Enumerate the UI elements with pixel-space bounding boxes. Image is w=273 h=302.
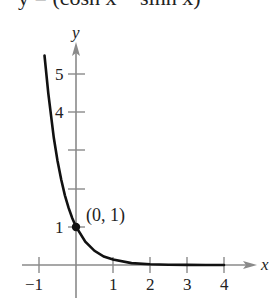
point-label: (0, 1) bbox=[86, 205, 125, 226]
x-axis-label: x bbox=[260, 255, 269, 274]
y-axis-label: y bbox=[70, 23, 80, 42]
x-tick-label-2: 2 bbox=[146, 275, 155, 294]
x-axis: x −1 1 2 3 4 bbox=[22, 255, 269, 294]
y-axis: y 5 4 1 bbox=[55, 23, 85, 298]
y-tick-label-4: 4 bbox=[55, 103, 64, 122]
x-tick-label-4: 4 bbox=[220, 275, 229, 294]
y-tick-label-1: 1 bbox=[55, 218, 64, 237]
x-tick-label-1: 1 bbox=[109, 275, 118, 294]
exponential-decay-graph: y = (cosh x − sinh x) y 5 4 1 x −1 1 2 3… bbox=[0, 0, 273, 302]
x-tick-label-neg1: −1 bbox=[25, 275, 43, 294]
point-0-1-marker bbox=[72, 223, 80, 231]
y-tick-label-5: 5 bbox=[55, 65, 64, 84]
header-equation: y = (cosh x − sinh x) bbox=[18, 0, 200, 10]
x-tick-label-3: 3 bbox=[183, 275, 192, 294]
decay-curve bbox=[45, 56, 225, 266]
